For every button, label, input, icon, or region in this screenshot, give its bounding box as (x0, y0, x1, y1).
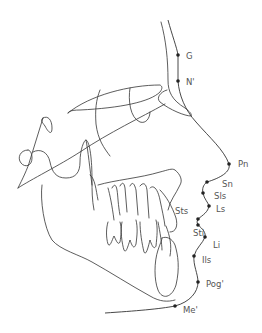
landmark-point-sts (196, 217, 200, 221)
landmark-point-n (176, 79, 180, 83)
symphysis-outline (155, 237, 178, 296)
landmark-point-ils (192, 254, 196, 258)
soft-tissue-profile (105, 20, 229, 313)
landmark-point-sls (201, 191, 205, 195)
landmark-point-ls (207, 204, 211, 208)
landmark-label-sls: Sls (214, 191, 227, 201)
lower-teeth (107, 220, 171, 256)
maxilla-outline (96, 88, 150, 156)
landmark-label-sts: Sts (175, 206, 189, 216)
landmark-label-ils: Ils (202, 255, 212, 265)
orbit-outline (68, 85, 162, 113)
landmark-label-sn: Sn (222, 179, 233, 189)
landmark-point-pog (196, 280, 200, 284)
landmark-point-sn (205, 180, 209, 184)
landmark-label-ls: Ls (216, 204, 226, 214)
landmark-label-li: Li (213, 240, 220, 250)
landmark-label-pog: Pog' (206, 279, 224, 289)
landmark-point-pn (227, 162, 231, 166)
landmark-label-me: Me' (183, 305, 198, 315)
upper-teeth (108, 183, 177, 232)
landmark-label-n: N' (186, 77, 195, 87)
landmark-point-me (173, 304, 177, 308)
cephalometric-diagram: G N' Pn Sn Sls Ls Sts Sti Li Ils Pog' Me… (0, 0, 262, 333)
landmark-labels: G N' Pn Sn Sls Ls Sts Sti Li Ils Pog' Me… (175, 51, 248, 315)
landmark-point-sti (196, 223, 200, 227)
sella-curve (42, 117, 52, 132)
porion-circle (19, 150, 32, 166)
cranial-base (18, 104, 165, 188)
frontal-bone-line (158, 22, 191, 116)
palatal-plane (98, 169, 181, 210)
mandible-border (41, 185, 175, 301)
landmark-label-sti: Sti (193, 228, 204, 238)
landmark-label-pn: Pn (238, 159, 248, 169)
landmark-label-g: G (186, 51, 193, 61)
landmark-point-g (176, 53, 180, 57)
ramus-outline (33, 140, 94, 210)
